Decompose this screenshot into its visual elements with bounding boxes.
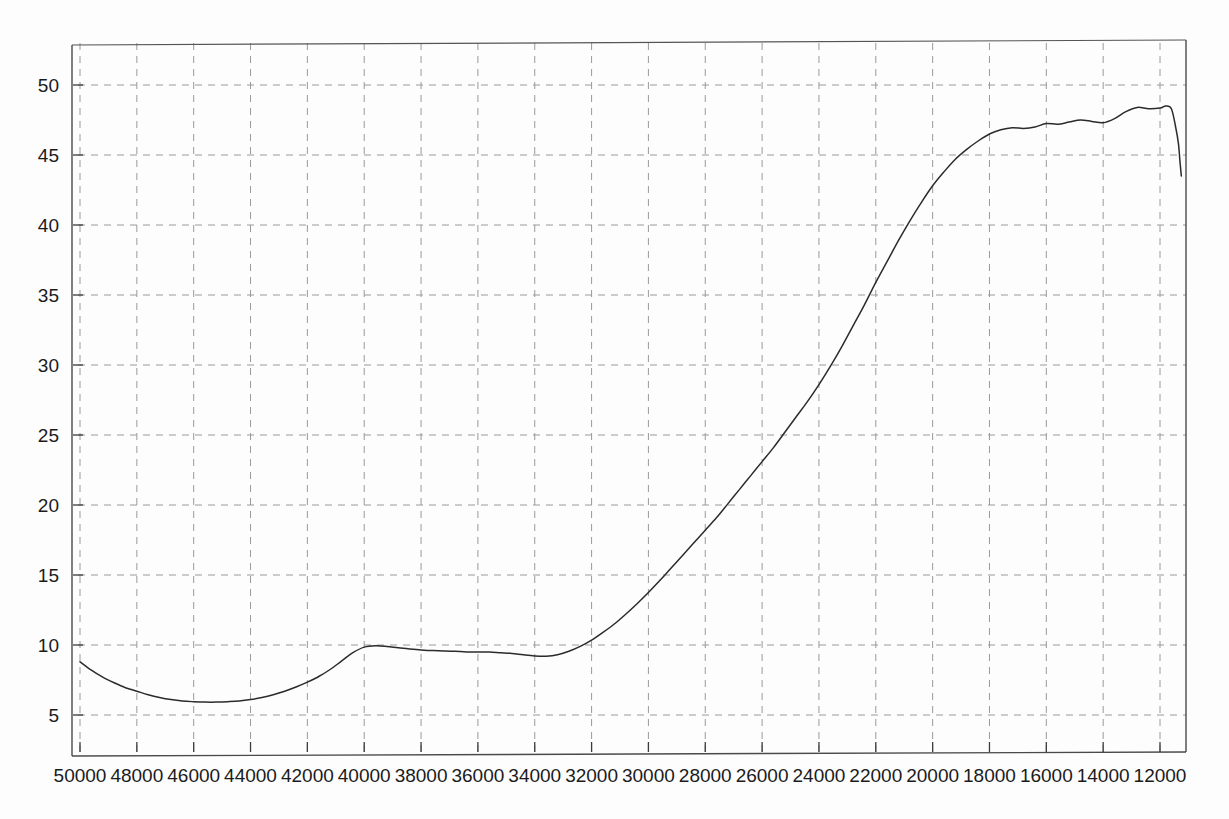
y-tick-label: 25: [38, 425, 59, 446]
x-tick-label: 16000: [1020, 765, 1073, 786]
x-tick-label: 30000: [622, 765, 675, 786]
x-tick-label: 18000: [963, 765, 1016, 786]
x-tick-label: 40000: [338, 765, 391, 786]
x-tick-label: 20000: [906, 765, 959, 786]
x-tick-label: 48000: [110, 765, 163, 786]
x-tick-label: 50000: [54, 765, 107, 786]
x-tick-label: 36000: [451, 765, 504, 786]
y-tick-label: 30: [38, 355, 59, 376]
x-tick-label: 22000: [849, 765, 902, 786]
y-tick-label: 20: [38, 495, 59, 516]
y-tick-label: 35: [38, 285, 59, 306]
y-tick-label: 5: [48, 705, 59, 726]
y-tick-label: 15: [38, 565, 59, 586]
x-tick-label: 32000: [565, 765, 618, 786]
x-tick-label: 34000: [508, 765, 561, 786]
x-tick-label: 44000: [224, 765, 277, 786]
chart-figure: 5101520253035404550 50000480004600044000…: [0, 0, 1229, 819]
line-chart-canvas: 5101520253035404550 50000480004600044000…: [0, 0, 1229, 819]
x-tick-label: 12000: [1134, 765, 1187, 786]
x-tick-label: 24000: [793, 765, 846, 786]
y-tick-label: 40: [38, 215, 59, 236]
x-tick-label: 46000: [167, 765, 220, 786]
y-tick-label: 10: [38, 635, 59, 656]
y-tick-label: 45: [38, 145, 59, 166]
x-tick-label: 38000: [395, 765, 448, 786]
figure-background: [0, 0, 1229, 819]
x-tick-label: 14000: [1077, 765, 1130, 786]
x-tick-label: 28000: [679, 765, 732, 786]
x-tick-label: 42000: [281, 765, 334, 786]
y-tick-label: 50: [38, 75, 59, 96]
x-tick-label: 26000: [736, 765, 789, 786]
